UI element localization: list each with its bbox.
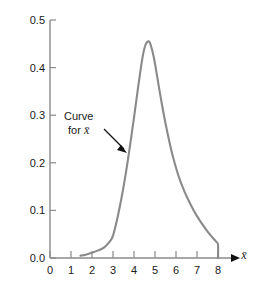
chart-container: 0.0 0.1 0.2 0.3 0.4 0.5 0 1 2 3 4 5 6 7 … — [0, 0, 255, 291]
y-tick-label-4: 0.4 — [30, 62, 45, 74]
x-axis-title: x̄ — [240, 248, 247, 262]
y-tick-label-5: 0.5 — [30, 14, 45, 26]
curve-annotation-line2: for x̄ — [68, 123, 90, 137]
x-tick-label-8: 8 — [215, 264, 221, 276]
curve-annotation-line1: Curve — [64, 110, 93, 122]
y-tick-label-3: 0.3 — [30, 109, 45, 121]
x-tick-label-4: 4 — [131, 264, 137, 276]
x-tick-label-6: 6 — [173, 264, 179, 276]
x-tick-label-2: 2 — [89, 264, 95, 276]
chart-background — [0, 0, 255, 291]
distribution-curve-chart: 0.0 0.1 0.2 0.3 0.4 0.5 0 1 2 3 4 5 6 7 … — [0, 0, 255, 291]
x-tick-label-7: 7 — [194, 264, 200, 276]
curve-annotation-xbar: x̄ — [83, 123, 90, 137]
x-tick-label-3: 3 — [110, 264, 116, 276]
x-tick-label-5: 5 — [152, 264, 158, 276]
y-tick-label-1: 0.1 — [30, 204, 45, 216]
x-tick-label-1: 1 — [68, 264, 74, 276]
y-tick-label-0: 0.0 — [30, 252, 45, 264]
x-tick-label-0: 0 — [47, 264, 53, 276]
curve-annotation-prefix: for — [68, 124, 84, 136]
y-tick-label-2: 0.2 — [30, 157, 45, 169]
